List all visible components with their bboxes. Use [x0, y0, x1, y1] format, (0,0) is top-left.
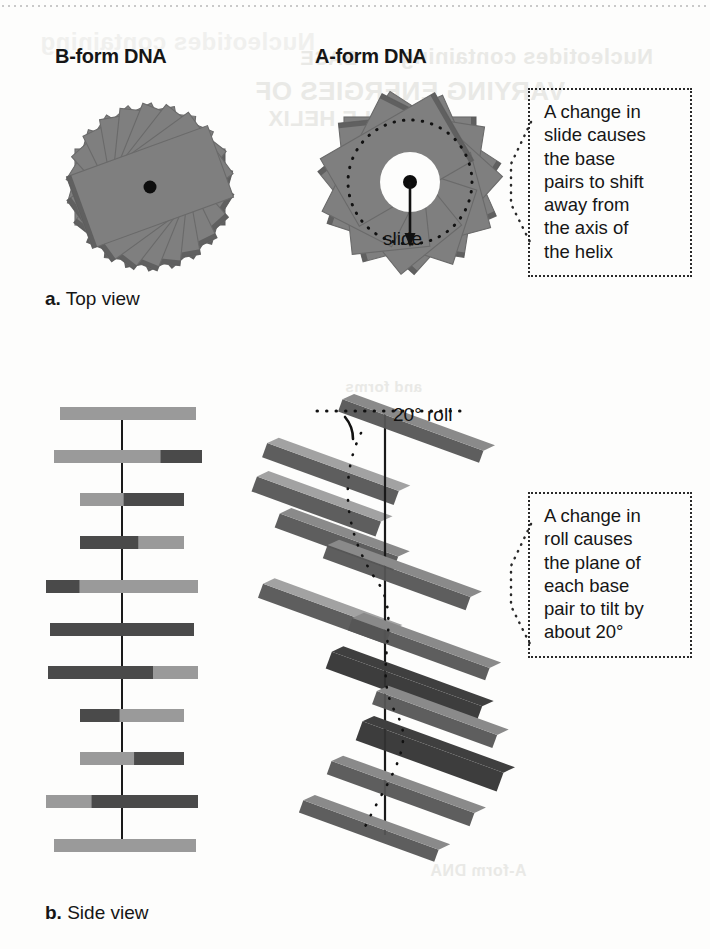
panel-b-letter: b.: [45, 902, 62, 923]
callout-line: A change in: [544, 504, 678, 527]
figure-page: Nucleotides containing Nucleotides conta…: [0, 0, 710, 949]
column-title-a-form: A-form DNA: [315, 45, 426, 68]
page-top-rule: [0, 5, 710, 7]
roll-callout: A change in roll causes the plane of eac…: [528, 492, 692, 658]
callout-line: slide causes: [544, 123, 678, 146]
callout-line: A change in: [544, 100, 678, 123]
callout-line: about 20°: [544, 620, 678, 643]
bleed-through-text: VARYING ENERGIES OF: [255, 76, 565, 107]
a-form-top-view-diagram: [278, 70, 543, 320]
panel-b-label: Side view: [67, 902, 148, 923]
b-form-top-view-diagram: [55, 95, 245, 280]
panel-a-letter: a.: [45, 288, 61, 309]
callout-line: the base: [544, 147, 678, 170]
panel-a-caption: a. Top view: [45, 288, 140, 310]
bleed-through-text: Nucleotides containing: [400, 44, 653, 70]
b-form-side-view-diagram: [20, 395, 260, 895]
callout-line: pairs to shift: [544, 170, 678, 193]
a-form-side-view-diagram: [265, 395, 545, 865]
bleed-through-text: and forms: [345, 378, 422, 395]
callout-line: away from: [544, 193, 678, 216]
roll-angle-label: 20° roll: [393, 404, 452, 426]
bleed-through-text: A-form DNA: [430, 862, 527, 880]
callout-line: pair to tilt by: [544, 597, 678, 620]
column-title-b-form: B-form DNA: [55, 45, 166, 68]
slide-callout: A change in slide causes the base pairs …: [528, 88, 692, 277]
callout-line: the helix: [544, 240, 678, 263]
panel-a-label: Top view: [66, 288, 140, 309]
panel-b-caption: b. Side view: [45, 902, 149, 924]
bleed-through-text: DOUBLE HELIX: [268, 106, 438, 132]
callout-line: roll causes: [544, 527, 678, 550]
callout-line: each base: [544, 574, 678, 597]
slide-arrow-label: slide: [383, 228, 422, 250]
callout-line: the axis of: [544, 216, 678, 239]
callout-line: the plane of: [544, 551, 678, 574]
